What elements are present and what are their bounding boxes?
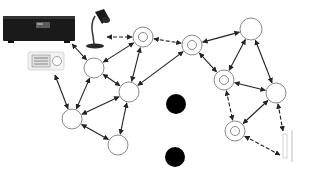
link-B-E (132, 48, 141, 82)
links-layer (55, 32, 283, 155)
link-C-E (138, 52, 183, 86)
link-E-I (120, 103, 127, 134)
node-B[interactable] (133, 27, 153, 47)
node-H[interactable] (62, 109, 82, 129)
blocked-nodes-layer (165, 94, 186, 167)
link-D-F (229, 40, 245, 71)
thermostat-icon[interactable] (28, 52, 64, 70)
link-H-I (82, 124, 109, 139)
link-C-F (199, 53, 216, 72)
link-G-switch (278, 104, 283, 131)
link-E-H (82, 97, 119, 115)
nodes-layer (62, 18, 286, 155)
link-G-J (243, 100, 268, 123)
link-F-J (226, 91, 232, 120)
link-A-H (76, 78, 89, 109)
blocked-node-X2 (165, 147, 185, 167)
node-J[interactable] (225, 121, 245, 141)
link-A-E (103, 74, 120, 86)
link-F-G (235, 83, 266, 91)
link-B-C (154, 39, 181, 43)
blocked-node-X1 (166, 94, 186, 114)
link-C-D (203, 32, 240, 42)
desk-lamp-icon[interactable] (86, 9, 110, 49)
node-A[interactable] (84, 58, 104, 78)
node-F[interactable] (214, 70, 234, 90)
node-G[interactable] (266, 83, 286, 103)
av-receiver-icon[interactable] (3, 16, 75, 43)
link-A-B (103, 43, 133, 62)
node-C[interactable] (182, 35, 202, 55)
diagram-canvas (0, 0, 309, 176)
link-thermostat-H (55, 75, 68, 109)
node-E[interactable] (119, 82, 139, 102)
link-D-G (255, 40, 272, 83)
wall-switch-icon[interactable] (283, 130, 292, 162)
network-diagram (0, 0, 309, 176)
node-I[interactable] (108, 135, 128, 155)
node-D[interactable] (240, 18, 262, 40)
link-J-switch (245, 136, 280, 155)
link-receiver-A (72, 44, 87, 60)
